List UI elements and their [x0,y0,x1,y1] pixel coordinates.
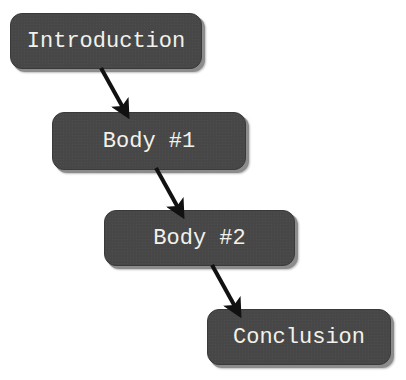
arrow-body1-to-body2-icon [156,168,181,213]
essay-structure-diagram: Introduction Body #1 Body #2 Conclusion [0,0,406,380]
node-conclusion: Conclusion [207,309,391,365]
node-introduction: Introduction [10,13,202,69]
arrow-body2-to-conclusion-icon [212,265,238,312]
node-label: Introduction [27,29,185,54]
arrow-intro-to-body1-icon [101,68,126,113]
node-label: Body #2 [153,226,245,251]
node-label: Conclusion [233,325,365,350]
node-label: Body #1 [103,129,195,154]
node-body-1: Body #1 [52,112,246,170]
node-body-2: Body #2 [104,210,295,266]
